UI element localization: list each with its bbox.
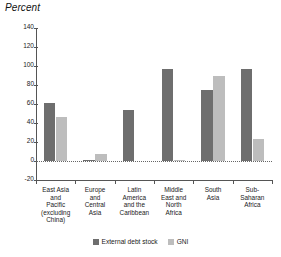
x-tick-mark xyxy=(75,180,76,184)
x-tick-mark xyxy=(272,180,273,184)
bar-gni xyxy=(95,154,107,161)
x-axis-label-2: Latin America and the Caribbean xyxy=(115,186,154,216)
y-tick-label: 20 xyxy=(27,137,34,144)
bar-gni xyxy=(213,76,225,162)
bar-external-debt-stock xyxy=(162,69,174,161)
legend-item-gni[interactable]: GNI xyxy=(168,238,189,245)
y-tick-60: 60 xyxy=(2,104,42,105)
y-tick-mark xyxy=(34,47,38,48)
bar-external-debt-stock xyxy=(123,110,135,161)
x-tick-mark xyxy=(36,180,37,184)
chart-legend: External debt stockGNI xyxy=(0,238,281,245)
legend-swatch-icon xyxy=(93,239,99,245)
y-tick-label: 40 xyxy=(27,118,34,125)
legend-swatch-icon xyxy=(168,239,174,245)
x-axis-label-1: Europe and Central Asia xyxy=(75,186,114,216)
x-axis-label-3: Middle East and North Africa xyxy=(154,186,193,216)
y-tick-120: 120 xyxy=(2,47,42,48)
y-tick-100: 100 xyxy=(2,66,42,67)
x-tick-mark xyxy=(115,180,116,184)
x-axis-label-5: Sub- Saharan Africa xyxy=(233,186,272,209)
bar-chart: Percent -20020406080100120140 East Asia … xyxy=(0,0,281,257)
bar-external-debt-stock xyxy=(44,103,56,161)
y-tick-mark xyxy=(34,123,38,124)
y-axis-title: Percent xyxy=(5,2,40,13)
x-tick-mark xyxy=(154,180,155,184)
legend-item-external-debt-stock[interactable]: External debt stock xyxy=(93,238,158,245)
y-tick-mark xyxy=(34,66,38,67)
y-tick-label: 140 xyxy=(23,23,34,30)
bar-gni xyxy=(253,139,265,161)
y-tick-20: 20 xyxy=(2,142,42,143)
y-tick-140: 140 xyxy=(2,28,42,29)
y-tick-label: -20 xyxy=(25,175,34,182)
y-tick-mark xyxy=(34,104,38,105)
y-tick-label: 80 xyxy=(27,80,34,87)
zero-reference-line xyxy=(36,161,272,162)
y-tick-80: 80 xyxy=(2,85,42,86)
x-axis-label-0: East Asia and Pacific (excluding China) xyxy=(36,186,75,224)
y-tick-mark xyxy=(34,142,38,143)
plot-area: -20020406080100120140 xyxy=(36,28,272,180)
bar-external-debt-stock xyxy=(201,90,213,161)
bar-external-debt-stock xyxy=(241,69,253,161)
y-tick-label: 120 xyxy=(23,42,34,49)
x-axis-label-4: South Asia xyxy=(193,186,232,201)
bar-gni xyxy=(56,117,68,161)
legend-label: GNI xyxy=(177,238,189,245)
y-tick-40: 40 xyxy=(2,123,42,124)
y-tick-mark xyxy=(34,85,38,86)
y-tick-mark xyxy=(34,28,38,29)
y-tick-label: 100 xyxy=(23,61,34,68)
legend-label: External debt stock xyxy=(102,238,158,245)
x-tick-mark xyxy=(233,180,234,184)
x-tick-mark xyxy=(193,180,194,184)
y-tick-label: 60 xyxy=(27,99,34,106)
